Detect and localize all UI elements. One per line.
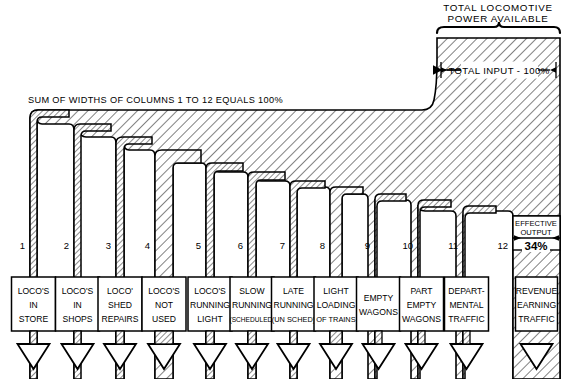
column-label-3-line1: LOCO': [107, 286, 133, 296]
diagram-title-line2: POWER AVAILABLE: [447, 13, 548, 24]
sum-of-widths-note: SUM OF WIDTHS OF COLUMNS 1 TO 12 EQUALS …: [28, 95, 283, 105]
column-number-10: 10: [402, 240, 413, 251]
column-label-1-line2: IN: [29, 300, 38, 310]
total-input-label: TOTAL INPUT - 100%: [448, 65, 549, 76]
column-label-7-line1: LATE: [283, 286, 304, 296]
column-label-3-line3: REPAIRS: [101, 314, 138, 324]
column-label-4-line2: NOT: [155, 300, 174, 310]
column-stem-7: [290, 331, 297, 344]
column-label-8-line1: LIGHT: [323, 286, 349, 296]
column-number-4: 4: [145, 240, 150, 251]
column-label-10-line1: PART: [410, 286, 433, 296]
column-label-1-line1: LOCO'S: [18, 286, 50, 296]
column-label-8-line2: LOADING: [317, 300, 356, 310]
column-label-10-line2: EMPTY: [407, 300, 437, 310]
locomotive-power-sankey-diagram: TOTAL INPUT - 100% EFFECTIVE OUTPUT 34% …: [0, 0, 570, 379]
column-label-9-line2: WAGONS: [359, 307, 398, 317]
diagram-title-line1: TOTAL LOCOMOTIVE: [443, 2, 553, 13]
column-label-6-line2: RUNNING: [232, 300, 272, 310]
column-number-8: 8: [320, 240, 325, 251]
column-stem-9: [375, 331, 382, 344]
column-label-11-line3: TRAFFIC: [448, 314, 484, 324]
column-label-1-line3: STORE: [19, 314, 49, 324]
column-stem-8: [330, 331, 342, 344]
column-stem-11: [463, 331, 470, 344]
column-label-5-line2: RUNNING: [190, 300, 230, 310]
column-label-6-line3: (SCHEDULED): [229, 316, 274, 324]
column-stem-4: [155, 331, 173, 344]
column-stem-5: [206, 331, 214, 344]
column-stem-3: [116, 331, 124, 344]
column-label-6-line1: SLOW: [239, 286, 265, 296]
column-label-7-line2: RUNNING: [273, 300, 313, 310]
column-label-2-line1: LOCO'S: [62, 286, 94, 296]
column-number-12: 12: [497, 240, 508, 251]
column-label-9-line1: EMPTY: [364, 293, 394, 303]
column-stem-2: [74, 331, 81, 344]
column-number-2: 2: [64, 240, 69, 251]
column-number-6: 6: [238, 240, 243, 251]
column-number-11: 11: [448, 240, 458, 251]
column-label-2-line2: IN: [73, 300, 82, 310]
column-label-11-line2: MENTAL: [449, 300, 483, 310]
column-stem-10: [418, 331, 425, 344]
column-label-12-line3: TRAFFIC: [518, 314, 554, 324]
column-label-5-line1: LOCO'S: [194, 286, 226, 296]
column-label-10-line3: WAGONS: [402, 314, 441, 324]
column-label-12-line2: EARNING: [517, 300, 556, 310]
column-label-3-line2: SHED: [108, 300, 132, 310]
column-label-box-9[interactable]: [357, 277, 401, 331]
column-label-12-line1: REVENUE: [516, 286, 558, 296]
column-label-5-line3: LIGHT: [197, 314, 223, 324]
diagram-canvas: TOTAL INPUT - 100% EFFECTIVE OUTPUT 34% …: [0, 0, 570, 379]
column-stem-6: [248, 331, 256, 344]
column-number-1: 1: [20, 240, 25, 251]
column-label-7-line3: (UN SCHED): [272, 315, 316, 324]
column-label-4-line3: USED: [152, 314, 176, 324]
column-label-8-line3: OF TRAINS: [316, 315, 355, 324]
column-number-3: 3: [106, 240, 111, 251]
column-label-4-line1: LOCO'S: [148, 286, 180, 296]
effective-output-value: 34%: [524, 240, 547, 252]
effective-output-measure: EFFECTIVE OUTPUT 34%: [513, 216, 560, 252]
column-number-9: 9: [365, 240, 370, 251]
column-number-5: 5: [196, 240, 201, 251]
effective-output-label-line2: OUTPUT: [520, 228, 552, 237]
column-stem-1: [30, 331, 37, 344]
total-input-measure: TOTAL INPUT - 100%: [441, 62, 556, 79]
column-number-7: 7: [280, 240, 285, 251]
column-label-2-line3: SHOPS: [62, 314, 92, 324]
column-label-11-line1: DEPART-: [448, 286, 485, 296]
effective-output-label-line1: EFFECTIVE: [515, 219, 557, 228]
